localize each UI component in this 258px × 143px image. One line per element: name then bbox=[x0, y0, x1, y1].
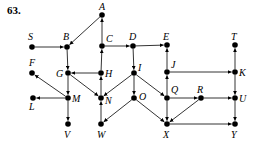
node-label-D: D bbox=[128, 31, 137, 42]
node-S bbox=[29, 44, 35, 50]
edge-D-E bbox=[136, 45, 164, 46]
node-D bbox=[130, 43, 136, 49]
edge-A-B bbox=[69, 17, 99, 45]
node-label-B: B bbox=[63, 31, 69, 42]
node-label-G: G bbox=[56, 68, 63, 79]
node-Q bbox=[164, 95, 170, 101]
node-V bbox=[65, 121, 71, 127]
node-label-J: J bbox=[171, 59, 176, 70]
node-label-Y: Y bbox=[231, 129, 238, 140]
node-N bbox=[98, 95, 104, 101]
node-label-L: L bbox=[28, 101, 35, 112]
node-label-W: W bbox=[97, 129, 107, 140]
node-label-T: T bbox=[231, 31, 238, 42]
node-label-E: E bbox=[162, 31, 169, 42]
node-W bbox=[98, 121, 104, 127]
node-label-S: S bbox=[28, 31, 33, 42]
node-U bbox=[232, 95, 238, 101]
node-label-U: U bbox=[239, 93, 247, 104]
nodes: ASBCDETFGHIJKLMNOQRUVWXY bbox=[28, 1, 247, 140]
node-label-I: I bbox=[137, 62, 142, 73]
node-T bbox=[232, 42, 238, 48]
node-label-K: K bbox=[238, 67, 247, 78]
node-label-H: H bbox=[104, 68, 113, 79]
edge-B-G bbox=[67, 50, 68, 70]
node-label-N: N bbox=[104, 95, 113, 106]
edge-O-X bbox=[136, 100, 164, 122]
node-G bbox=[65, 70, 71, 76]
node-Y bbox=[232, 121, 238, 127]
node-label-O: O bbox=[139, 91, 146, 102]
node-K bbox=[232, 69, 238, 75]
node-X bbox=[164, 121, 170, 127]
node-label-F: F bbox=[28, 57, 36, 68]
node-label-Q: Q bbox=[171, 84, 179, 95]
edge-R-X bbox=[170, 100, 199, 122]
node-O bbox=[131, 95, 137, 101]
node-A bbox=[99, 12, 105, 18]
node-H bbox=[98, 70, 104, 76]
node-B bbox=[64, 44, 70, 50]
node-label-C: C bbox=[106, 33, 113, 44]
node-I bbox=[131, 70, 137, 76]
node-label-A: A bbox=[98, 1, 106, 12]
node-F bbox=[29, 70, 35, 76]
node-label-V: V bbox=[64, 129, 72, 140]
edge-D-I bbox=[133, 49, 134, 70]
node-label-M: M bbox=[71, 93, 81, 104]
edge-H-C bbox=[101, 49, 102, 70]
node-J bbox=[164, 69, 170, 75]
node-C bbox=[99, 43, 105, 49]
node-label-R: R bbox=[196, 84, 203, 95]
directed-graph: ASBCDETFGHIJKLMNOQRUVWXY bbox=[0, 0, 258, 143]
node-L bbox=[30, 95, 36, 101]
node-E bbox=[164, 42, 170, 48]
node-M bbox=[65, 95, 71, 101]
node-label-X: X bbox=[162, 129, 170, 140]
node-R bbox=[198, 95, 204, 101]
